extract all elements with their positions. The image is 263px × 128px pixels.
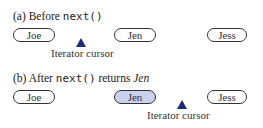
caption-text: returns [96, 72, 134, 84]
iterator-cursor-icon [76, 38, 86, 47]
caption-code: next() [56, 72, 96, 85]
caption-italic: Jen [133, 72, 149, 84]
node-jess: Jess [207, 90, 247, 104]
node-jen-highlighted: Jen [114, 90, 156, 104]
caption-text: (b) After [13, 72, 56, 84]
panel-b-caption: (b) After next() returns Jen [13, 72, 149, 85]
caption-text: (a) Before [13, 10, 63, 22]
iterator-cursor-icon [177, 100, 187, 109]
node-joe: Joe [13, 28, 55, 42]
cursor-label: Iterator cursor [147, 109, 210, 121]
cursor-label: Iterator cursor [51, 47, 114, 59]
node-joe: Joe [13, 90, 55, 104]
node-jess: Jess [207, 28, 247, 42]
node-jen: Jen [114, 28, 156, 42]
panel-a-caption: (a) Before next() [13, 10, 103, 23]
caption-code: next() [63, 10, 103, 23]
